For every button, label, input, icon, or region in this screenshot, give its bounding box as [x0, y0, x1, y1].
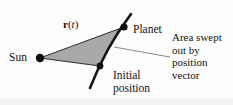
- area-swept-caption: Area swept out by position vector: [172, 31, 222, 82]
- sun-marker-dot: [36, 54, 44, 62]
- planet-label: Planet: [133, 24, 162, 36]
- position-vector-label: r(t): [63, 19, 78, 30]
- area-caption-line-4: vector: [172, 69, 222, 82]
- swept-area-region: [40, 27, 124, 66]
- planet-marker-dot: [120, 23, 127, 30]
- initial-position-label-line-1: Initial: [113, 69, 150, 82]
- area-caption-line-2: out by: [172, 44, 222, 57]
- kepler-area-swept-figure: Sun Planet r(t) Initial position Area sw…: [0, 0, 233, 105]
- initial-position-label-line-2: position: [113, 82, 150, 95]
- bottom-edge-band: [0, 99, 233, 105]
- vector-symbol-close-paren: ): [75, 18, 79, 30]
- area-caption-line-1: Area swept: [172, 31, 222, 44]
- area-leader-line: [114, 47, 170, 57]
- area-caption-line-3: position: [172, 56, 222, 69]
- initial-position-marker-dot: [97, 63, 104, 70]
- sun-label: Sun: [9, 52, 27, 64]
- initial-position-label: Initial position: [113, 69, 150, 95]
